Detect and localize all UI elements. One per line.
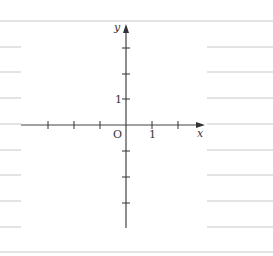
y-axis-label: y bbox=[113, 21, 121, 34]
y-unit-label: 1 bbox=[115, 93, 122, 106]
x-axis-label: x bbox=[197, 127, 204, 140]
left-ruled-lines bbox=[0, 47, 21, 227]
y-axis-arrow-icon bbox=[123, 24, 129, 33]
right-ruled-lines bbox=[207, 47, 273, 227]
origin-label: O bbox=[113, 128, 122, 141]
x-unit-label: 1 bbox=[149, 128, 156, 141]
coordinate-diagram: y x O 1 1 bbox=[0, 0, 273, 256]
